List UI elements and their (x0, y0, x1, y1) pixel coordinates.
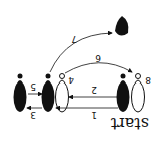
pin-4 (56, 74, 69, 113)
pin-8 (132, 74, 145, 113)
arrow-6-label: 6 (95, 53, 101, 63)
arrow-1-label: 1 (91, 110, 97, 120)
fallen-pin (115, 16, 128, 36)
diagram-canvas: start 8 4 1 2 3 5 6 (0, 0, 162, 149)
start-label: start (110, 114, 149, 133)
pin-8-label: 8 (145, 75, 151, 85)
pin-black-b (42, 74, 55, 113)
arrow-5-label: 5 (30, 82, 36, 92)
arrow-2-label: 2 (91, 85, 97, 95)
pin-black-a (14, 74, 27, 113)
pin-black-c (117, 74, 130, 113)
arrow-3-label: 3 (30, 110, 36, 120)
arrow-6 (65, 63, 132, 73)
pin-4-label: 4 (68, 75, 74, 85)
arrow-7-label: 7 (71, 34, 77, 44)
pin-sequence-diagram: start 8 4 1 2 3 5 6 (0, 0, 162, 149)
